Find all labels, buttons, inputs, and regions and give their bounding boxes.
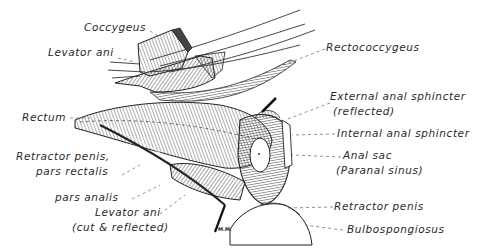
label-anal-sac-line1: Anal sac: [343, 149, 392, 161]
label-bulbospongiosus: Bulbospongiosus: [347, 223, 445, 235]
levator-ani-cut-muscle: [170, 164, 245, 200]
label-rectococcygeus: Rectococcygeus: [326, 41, 420, 53]
label-coccygeus: Coccygeus: [84, 21, 146, 33]
label-external-anal-sphincter-line2: (reflected): [333, 105, 395, 117]
label-retractor-penis-rectalis-line2: pars rectalis: [36, 165, 108, 177]
label-levator-ani-cut-line1: Levator ani: [95, 206, 161, 218]
label-levator-ani-top: Levator ani: [48, 46, 114, 58]
anal-sac: [250, 138, 270, 172]
artist-signature: M.M.: [218, 226, 232, 232]
label-rectum: Rectum: [22, 111, 66, 123]
label-internal-anal-sphincter: Internal anal sphincter: [337, 127, 470, 139]
anatomical-illustration: [0, 0, 486, 252]
label-pars-analis: pars analis: [55, 191, 119, 203]
bulbospongiosus-muscle: [230, 204, 312, 245]
label-external-anal-sphincter-line1: External anal sphincter: [330, 90, 466, 102]
label-levator-ani-cut-line2: (cut & reflected): [72, 221, 169, 233]
label-anal-sac-line2: (Paranal sinus): [336, 164, 423, 176]
label-retractor-penis: Retractor penis: [334, 200, 424, 212]
label-retractor-penis-rectalis-line1: Retractor penis,: [16, 150, 110, 162]
